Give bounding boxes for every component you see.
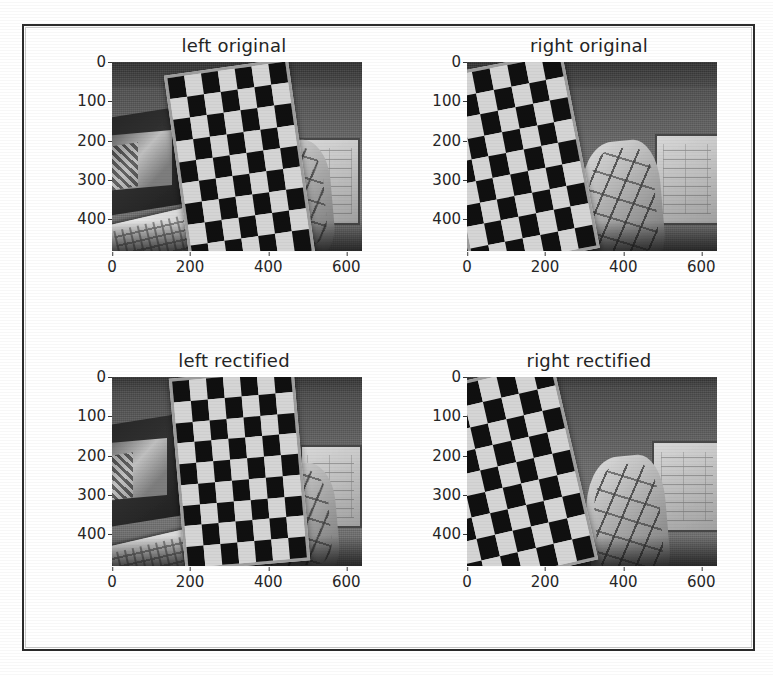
xtick-0: 0 [462, 573, 472, 591]
scene-poster-lines [663, 144, 712, 213]
image-left-rectified [112, 377, 362, 566]
ytick-400: 400 [77, 525, 106, 543]
figure-page: left original [0, 0, 773, 675]
ytick-100: 100 [77, 407, 106, 425]
xtick-0: 0 [107, 573, 117, 591]
scene-monitor-grid [112, 451, 133, 501]
checkerboard-square [281, 454, 300, 476]
xtick-400: 400 [609, 258, 638, 276]
axes-right-rectified: 0 100 200 300 400 0 200 400 600 [467, 377, 717, 566]
checkerboard-square [210, 419, 229, 441]
xtick-400: 400 [254, 573, 283, 591]
checkerboard-square [179, 463, 198, 485]
checkerboard-square [257, 377, 276, 395]
checkerboard-square [292, 229, 312, 251]
checkerboard-square [200, 503, 219, 525]
checkerboard-square [575, 225, 596, 250]
checkerboard-square [251, 498, 270, 520]
checkerboard-square [271, 82, 291, 105]
checkerboard-square [211, 439, 230, 461]
checkerboard-square [269, 518, 288, 540]
checkerboard-square [266, 476, 285, 498]
ytick-100: 100 [77, 92, 106, 110]
ytick-0: 0 [96, 368, 106, 386]
ytick-0: 0 [96, 53, 106, 71]
checkerboard-square [285, 495, 304, 517]
ytick-100: 100 [432, 92, 461, 110]
axes-left-original: 0 100 200 300 400 0 200 400 600 [112, 62, 362, 251]
figure-frame: left original [22, 24, 755, 651]
xtick-200: 200 [531, 573, 560, 591]
image-right-rectified [467, 377, 717, 566]
checkerboard-square [279, 433, 298, 455]
checkerboard-square [247, 457, 266, 479]
checkerboard-square [172, 380, 191, 402]
checkerboard-square [206, 377, 225, 399]
checkerboard-square [220, 543, 239, 565]
checkerboard-square [259, 394, 278, 416]
checkerboard-square [187, 546, 206, 566]
subplot-left-rectified: left rectified [64, 351, 404, 641]
xtick-400: 400 [254, 258, 283, 276]
checkerboard-square [252, 519, 271, 541]
panel-title-left-original: left original [64, 36, 404, 56]
checkerboard-grid [169, 377, 310, 566]
checkerboard-square [268, 62, 288, 85]
checkerboard-square [271, 538, 290, 560]
ytick-400: 400 [77, 210, 106, 228]
checkerboard-square [237, 541, 256, 563]
checkerboard-square [242, 395, 261, 417]
checkerboard-square [196, 461, 215, 483]
ytick-300: 300 [432, 486, 461, 504]
checkerboard-square [283, 475, 302, 497]
checkerboard-square [185, 525, 204, 547]
checkerboard-square [198, 482, 217, 504]
ytick-300: 300 [432, 171, 461, 189]
checkerboard-square [288, 537, 307, 559]
checkerboard-square [249, 478, 268, 500]
ytick-200: 200 [77, 132, 106, 150]
ytick-300: 300 [77, 486, 106, 504]
checkerboard-square [254, 540, 273, 562]
checkerboard-square [194, 441, 213, 463]
checkerboard-square [232, 479, 251, 501]
scene-monitor-grid [112, 143, 138, 192]
checkerboard-square [572, 536, 595, 562]
checkerboard-square [260, 414, 279, 436]
checkerboard-square [277, 124, 297, 147]
panel-title-right-original: right original [419, 36, 759, 56]
ytick-400: 400 [432, 525, 461, 543]
checkerboard-square [277, 413, 296, 435]
panel-title-right-rectified: right rectified [419, 351, 759, 371]
xtick-0: 0 [462, 258, 472, 276]
checkerboard-square [228, 438, 247, 460]
checkerboard-square [230, 459, 249, 481]
checkerboard-square [213, 460, 232, 482]
checkerboard-square [181, 484, 200, 506]
checkerboard-square [276, 392, 295, 414]
checkerboard-square [264, 456, 283, 478]
checkerboard-square [178, 442, 197, 464]
xtick-600: 600 [687, 573, 716, 591]
checkerboard-square [245, 436, 264, 458]
checkerboard-square [176, 422, 195, 444]
checkerboard-square [174, 401, 193, 423]
ytick-300: 300 [77, 171, 106, 189]
ytick-200: 200 [432, 132, 461, 150]
ytick-100: 100 [432, 407, 461, 425]
ytick-400: 400 [432, 210, 461, 228]
ytick-200: 200 [77, 447, 106, 465]
image-right-original [467, 62, 717, 251]
xtick-200: 200 [531, 258, 560, 276]
checkerboard-square [225, 397, 244, 419]
checkerboard-square [215, 481, 234, 503]
xtick-600: 600 [332, 258, 361, 276]
checkerboard-square [286, 187, 306, 210]
xtick-400: 400 [609, 573, 638, 591]
checkerboard-square [208, 398, 227, 420]
panel-title-left-rectified: left rectified [64, 351, 404, 371]
checkerboard-square [203, 544, 222, 566]
scene-poster-lines [661, 452, 714, 521]
scene-poster [655, 134, 718, 225]
ytick-200: 200 [432, 447, 461, 465]
